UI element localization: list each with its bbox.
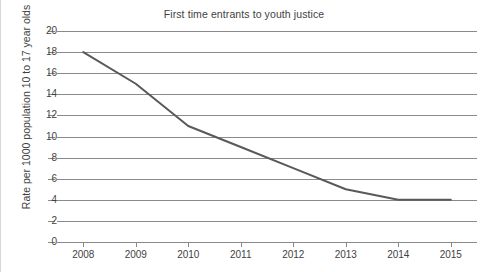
x-tick-mark-2008	[83, 242, 84, 247]
series-polyline	[83, 52, 451, 200]
x-tick-label: 2009	[108, 249, 164, 260]
y-tick-label: 18	[17, 47, 57, 57]
x-tick-label: 2011	[213, 249, 269, 260]
y-tick-label: 2	[17, 216, 57, 226]
x-tick-mark-2013	[346, 242, 347, 247]
y-axis-ticks: 02468101214161820	[0, 31, 57, 242]
x-tick-label: 2014	[370, 249, 426, 260]
x-tick-label: 2015	[423, 249, 479, 260]
x-tick-label: 2012	[265, 249, 321, 260]
chart-title: First time entrants to youth justice	[0, 8, 488, 20]
y-tick-label: 12	[17, 110, 57, 120]
x-tick-label: 2008	[55, 249, 111, 260]
x-axis-ticks: 20082009201020112012201320142015	[57, 242, 477, 272]
y-tick-label: 14	[17, 89, 57, 99]
x-tick-mark-2011	[241, 242, 242, 247]
y-tick-label: 8	[17, 153, 57, 163]
y-tick-label: 20	[17, 26, 57, 36]
x-tick-mark-2009	[136, 242, 137, 247]
chart-figure: First time entrants to youth justice Rat…	[0, 0, 488, 272]
x-tick-mark-2014	[398, 242, 399, 247]
y-tick-label: 6	[17, 174, 57, 184]
x-tick-mark-2015	[451, 242, 452, 247]
plot-area	[57, 31, 477, 242]
y-tick-label: 16	[17, 68, 57, 78]
y-tick-label: 10	[17, 132, 57, 142]
y-tick-label: 4	[17, 195, 57, 205]
x-tick-mark-2012	[293, 242, 294, 247]
x-tick-label: 2013	[318, 249, 374, 260]
x-tick-mark-2010	[188, 242, 189, 247]
y-tick-label: 0	[17, 237, 57, 247]
x-tick-label: 2010	[160, 249, 216, 260]
line-series	[57, 31, 477, 242]
